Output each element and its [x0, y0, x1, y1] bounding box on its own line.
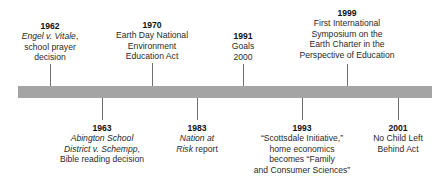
tick-1970: [152, 63, 153, 86]
tick-1993: [302, 98, 303, 120]
report-name: Risk: [176, 144, 193, 154]
event-text: becomes “Family: [254, 154, 351, 164]
event-text: No Child Left: [373, 133, 423, 143]
event-1963: 1963 Abington School District v. Schempp…: [60, 123, 144, 165]
event-year: 1962: [22, 21, 79, 31]
event-1962: 1962 Engel v. Vitale, school prayer deci…: [22, 21, 79, 63]
event-text: Perspective of Education: [299, 50, 394, 60]
event-text: “Scottsdale Initiative,”: [254, 133, 351, 143]
event-1983: 1983 Nation at Risk report: [176, 123, 218, 154]
event-text: home economics: [254, 144, 351, 154]
event-text: Behind Act: [373, 144, 423, 154]
event-text: Environment: [116, 41, 188, 51]
case-name: Abington School: [60, 133, 144, 143]
case-name: Engel v. Vitale: [22, 31, 76, 41]
event-2001: 2001 No Child Left Behind Act: [373, 123, 423, 154]
event-text: decision: [22, 52, 79, 62]
event-year: 1999: [299, 8, 394, 18]
event-text: and Consumer Sciences”: [254, 165, 351, 175]
event-year: 1983: [176, 123, 218, 133]
tick-1983: [197, 98, 198, 120]
tick-1999: [347, 64, 348, 86]
event-text: Goals: [232, 41, 254, 51]
event-text: school prayer: [22, 42, 79, 52]
event-year: 2001: [373, 123, 423, 133]
timeline-bar: [18, 86, 432, 98]
event-year: 1963: [60, 123, 144, 133]
tick-2001: [398, 98, 399, 120]
event-text: Earth Day National: [116, 30, 188, 40]
event-1993: 1993 “Scottsdale Initiative,” home econo…: [254, 123, 351, 175]
event-text: Earth Charter in the: [299, 39, 394, 49]
tick-1963: [102, 98, 103, 120]
event-text: First International: [299, 18, 394, 28]
event-text: 2000: [232, 52, 254, 62]
event-text: Education Act: [116, 51, 188, 61]
event-text: Symposium on the: [299, 29, 394, 39]
event-1970: 1970 Earth Day National Environment Educ…: [116, 20, 188, 62]
event-1999: 1999 First International Symposium on th…: [299, 8, 394, 60]
event-year: 1991: [232, 31, 254, 41]
report-name: Nation at: [176, 133, 218, 143]
event-1991: 1991 Goals 2000: [232, 31, 254, 62]
event-year: 1993: [254, 123, 351, 133]
event-text: Bible reading decision: [60, 154, 144, 164]
tick-1991: [243, 64, 244, 86]
case-name: District v. Schempp: [64, 144, 137, 154]
tick-1962: [50, 64, 51, 86]
event-year: 1970: [116, 20, 188, 30]
